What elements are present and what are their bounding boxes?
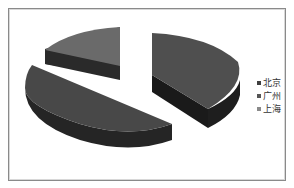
legend-swatch xyxy=(257,81,261,85)
legend-label: 上海 xyxy=(263,102,281,115)
slice-guangzhou[interactable] xyxy=(25,65,172,148)
legend-label: 北京 xyxy=(263,76,281,89)
legend-item-shanghai: 上海 xyxy=(257,102,281,115)
legend-label: 广州 xyxy=(263,89,281,102)
slice-beijing[interactable] xyxy=(152,33,240,128)
legend-swatch xyxy=(257,107,261,111)
legend-swatch xyxy=(257,94,261,98)
slice-shanghai[interactable] xyxy=(45,27,120,80)
legend-item-guangzhou: 广州 xyxy=(257,89,281,102)
chart-legend: 北京 广州 上海 xyxy=(257,76,281,115)
legend-item-beijing: 北京 xyxy=(257,76,281,89)
pie-chart xyxy=(0,0,294,188)
